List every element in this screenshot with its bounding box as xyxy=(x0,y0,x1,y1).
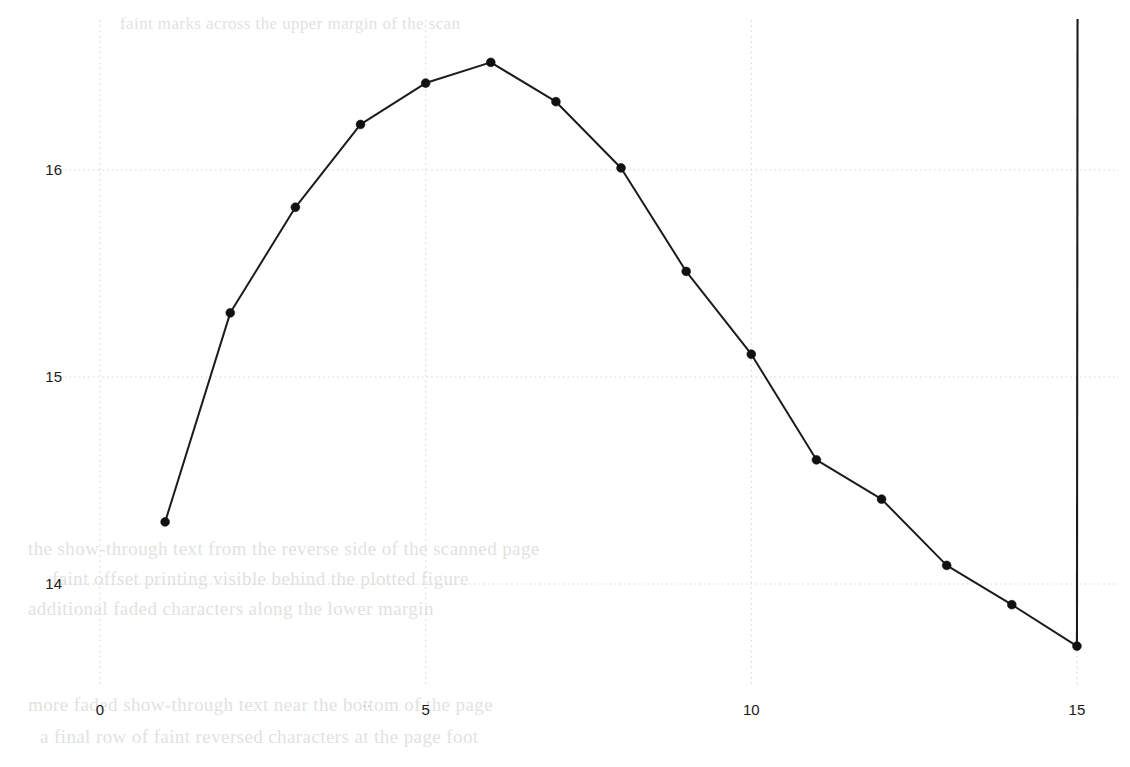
annotation-lines xyxy=(1077,19,1078,646)
data-point xyxy=(682,267,691,276)
vertical-line xyxy=(1077,19,1078,646)
y-axis-tick-label: 14 xyxy=(0,575,62,592)
data-point xyxy=(1007,600,1016,609)
data-point xyxy=(161,518,170,527)
data-point xyxy=(617,164,626,173)
x-axis-tick-label: 15 xyxy=(1037,701,1117,718)
data-point xyxy=(486,58,495,67)
data-point xyxy=(226,308,235,317)
ellipsis-mark: .. xyxy=(362,693,370,710)
data-point xyxy=(747,350,756,359)
data-point xyxy=(552,97,561,106)
y-axis-tick-label: 16 xyxy=(0,161,62,178)
data-point xyxy=(1073,642,1082,651)
x-axis-tick-label: 0 xyxy=(60,701,140,718)
y-axis-tick-label: 15 xyxy=(0,368,62,385)
data-point xyxy=(291,203,300,212)
data-point xyxy=(812,455,821,464)
data-point xyxy=(421,79,430,88)
line-chart xyxy=(0,0,1130,767)
data-point xyxy=(877,495,886,504)
data-point xyxy=(356,120,365,129)
x-axis-tick-label: 5 xyxy=(386,701,466,718)
chart-page: faint marks across the upper margin of t… xyxy=(0,0,1130,767)
series-line xyxy=(165,62,1077,646)
data-point xyxy=(942,561,951,570)
data-line xyxy=(165,62,1077,646)
x-axis-tick-label: 10 xyxy=(711,701,791,718)
